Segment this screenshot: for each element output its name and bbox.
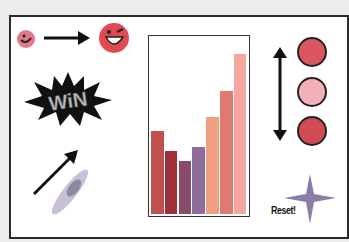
small-face-icon[interactable]: [16, 29, 36, 49]
big-face-icon[interactable]: [98, 22, 130, 54]
bar-chart: [148, 35, 250, 217]
win-burst-icon[interactable]: WiN: [22, 70, 114, 128]
color-circles: [296, 36, 328, 146]
chart-bar: [179, 161, 192, 214]
chart-bar: [151, 131, 164, 214]
rocket-icon[interactable]: [30, 148, 100, 218]
vertical-double-arrow-icon: [270, 46, 290, 142]
four-point-star-icon[interactable]: [282, 174, 338, 224]
chart-bar: [192, 147, 205, 214]
reset-button[interactable]: Reset!: [271, 204, 296, 216]
chart-bar: [220, 91, 233, 214]
arrow-right-icon: [42, 30, 92, 46]
circle-bottom[interactable]: [298, 117, 326, 145]
chart-bar: [234, 54, 247, 214]
circle-middle[interactable]: [298, 78, 326, 106]
chart-bar: [206, 117, 219, 214]
chart-bar: [165, 151, 178, 214]
circle-top[interactable]: [298, 38, 326, 66]
